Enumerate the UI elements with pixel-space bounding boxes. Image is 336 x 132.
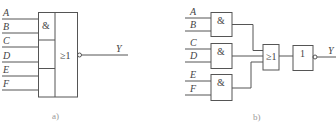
logic-diagrams: A B C D E F & ≥1 Y a) A B & C D & xyxy=(0,0,336,132)
and-gate-1-symbol: & xyxy=(217,15,225,26)
label-e: E xyxy=(189,69,196,80)
diagram-b: A B & C D & E F & ≥1 1 Y b) xyxy=(185,6,336,122)
label-b: B xyxy=(3,21,9,32)
label-c: C xyxy=(190,37,197,48)
or-symbol: ≥1 xyxy=(60,50,71,61)
caption-a: a) xyxy=(52,111,59,121)
label-a: A xyxy=(2,7,10,18)
and-symbol: & xyxy=(42,20,50,31)
label-c: C xyxy=(3,35,10,46)
label-d: D xyxy=(189,50,198,61)
and-gate-3-symbol: & xyxy=(217,77,225,88)
label-b: B xyxy=(190,19,196,30)
label-a: A xyxy=(189,6,197,17)
label-d: D xyxy=(2,50,11,61)
wire-and3-or xyxy=(232,62,263,88)
caption-b: b) xyxy=(253,112,261,122)
output-label-y: Y xyxy=(328,45,335,56)
label-f: F xyxy=(2,78,10,89)
label-e: E xyxy=(2,64,9,75)
output-label-y: Y xyxy=(116,43,123,54)
and-gate-2-symbol: & xyxy=(217,46,225,57)
not-gate-symbol: 1 xyxy=(300,48,305,59)
inversion-bubble xyxy=(78,53,82,57)
label-f: F xyxy=(189,83,197,94)
wire-and1-or xyxy=(232,25,263,51)
inversion-bubble xyxy=(313,55,317,59)
or-gate-symbol: ≥1 xyxy=(266,51,277,62)
diagram-a: A B C D E F & ≥1 Y a) xyxy=(2,7,128,121)
